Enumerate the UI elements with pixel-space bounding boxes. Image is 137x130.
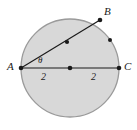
point-marker-chord-midpoint [65, 40, 69, 44]
point-marker-center [68, 66, 73, 71]
point-label-a: A [7, 61, 14, 72]
point-marker-c [117, 66, 122, 71]
measure-label-left: 2 [41, 72, 46, 82]
point-label-c: C [124, 61, 131, 72]
point-marker-arc [108, 38, 112, 42]
point-label-b: B [104, 6, 111, 17]
point-marker-a [19, 66, 24, 71]
point-marker-b [98, 18, 103, 23]
measure-label-right: 2 [91, 72, 96, 82]
angle-label-theta: θ [38, 56, 42, 65]
geometry-figure: A B C θ 2 2 [0, 0, 137, 130]
geometry-canvas [0, 0, 137, 130]
